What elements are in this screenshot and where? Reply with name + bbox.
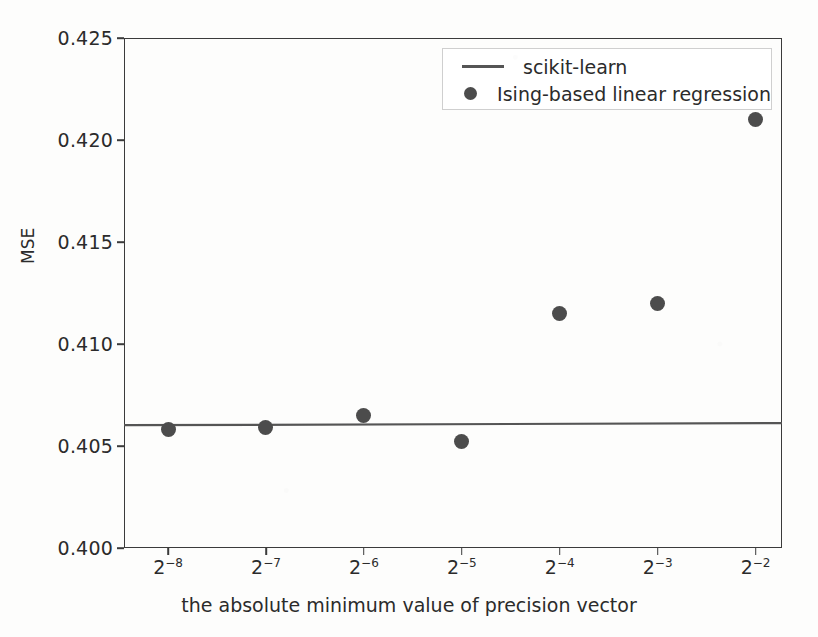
- y-axis-tick-label: 0.425: [58, 27, 113, 49]
- chart-legend: scikit-learn Ising-based linear regressi…: [442, 48, 772, 110]
- x-axis-tick-mark: [461, 548, 463, 555]
- x-axis-tick-label: 2−3: [643, 556, 673, 578]
- y-axis-tick-label: 0.405: [58, 435, 113, 457]
- x-axis-tick-label: 2−4: [545, 556, 575, 578]
- legend-label: scikit-learn: [523, 56, 627, 78]
- x-axis-tick-label: 2−5: [447, 556, 477, 578]
- x-axis-tick-mark: [755, 548, 757, 555]
- x-axis-tick-label: 2−6: [349, 556, 379, 578]
- y-axis-tick-label: 0.400: [58, 537, 113, 559]
- x-axis-tick-mark: [559, 548, 561, 555]
- y-axis-tick-mark: [117, 343, 124, 345]
- x-axis-label: the absolute minimum value of precision …: [0, 594, 818, 616]
- chart-figure: 0.4000.4050.4100.4150.4200.425 MSE the a…: [0, 0, 818, 637]
- y-axis-label: MSE: [18, 228, 38, 264]
- scikit-learn-trendline: [124, 38, 782, 548]
- x-axis-tick-mark: [657, 548, 659, 555]
- y-axis-tick-mark: [117, 241, 124, 243]
- y-axis-tick-label: 0.420: [58, 129, 113, 151]
- y-axis-tick-mark: [117, 547, 124, 549]
- legend-label: Ising-based linear regression: [497, 83, 771, 105]
- y-axis-tick-mark: [117, 445, 124, 447]
- x-axis-tick-mark: [167, 548, 169, 555]
- x-axis-tick-label: 2−2: [741, 556, 771, 578]
- y-axis-tick-labels: 0.4000.4050.4100.4150.4200.425: [0, 0, 113, 637]
- data-point: [650, 296, 665, 311]
- x-axis-tick-mark: [363, 548, 365, 555]
- y-axis-tick-label: 0.410: [58, 333, 113, 355]
- x-axis-tick-mark: [265, 548, 267, 555]
- data-point: [161, 422, 176, 437]
- legend-item-scikit-learn: scikit-learn: [443, 53, 771, 80]
- x-axis-tick-label: 2−7: [251, 556, 281, 578]
- dot-marker-icon: [453, 87, 487, 100]
- line-swatch-icon: [453, 65, 513, 67]
- x-axis-tick-label: 2−8: [153, 556, 183, 578]
- y-axis-tick-mark: [117, 139, 124, 141]
- y-axis-tick-mark: [117, 37, 124, 39]
- legend-item-ising-based-linear-regression: Ising-based linear regression: [443, 80, 771, 107]
- y-axis-tick-label: 0.415: [58, 231, 113, 253]
